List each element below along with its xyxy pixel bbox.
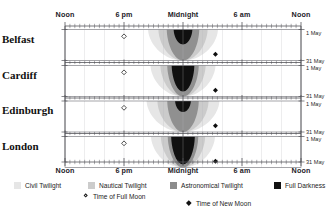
city-label-cardiff: Cardiff xyxy=(2,69,62,81)
legend-label-nautical-twilight: Nautical Twilight xyxy=(99,182,147,189)
legend-band-row: Civil Twilight Nautical Twilight Astrono… xyxy=(0,178,335,192)
axis-label-top-6pm: 6 pm xyxy=(115,10,132,19)
axis-label-bottom-6pm: 6 pm xyxy=(115,166,132,175)
legend-item-full-darkness: Full Darkness xyxy=(274,182,325,189)
axis-label-top-noon-left: Noon xyxy=(56,10,75,19)
date-label-1: 31 May xyxy=(306,58,324,64)
axis-label-bottom-noon-left: Noon xyxy=(56,166,75,175)
civil-twilight-swatch-icon xyxy=(14,182,21,189)
date-label-7: 31 May xyxy=(306,159,324,165)
legend-label-astronomical-twilight: Astronomical Twilight xyxy=(181,182,243,189)
legend-item-new-moon: Time of New Moon xyxy=(186,200,335,207)
legend-item-full-moon: Time of Full Moon xyxy=(83,193,335,200)
legend-moon-row: Time of Full Moon Time of New Moon xyxy=(0,193,335,205)
legend-label-civil-twilight: Civil Twilight xyxy=(25,182,61,189)
legend-item-astronomical-twilight: Astronomical Twilight xyxy=(170,182,243,189)
date-label-0: 1 May xyxy=(306,30,321,36)
panel-cardiff xyxy=(65,66,301,97)
astronomical-twilight-swatch-icon xyxy=(170,182,177,189)
legend-label-full-moon: Time of Full Moon xyxy=(93,193,146,200)
axis-label-top-6am: 6 am xyxy=(234,10,251,19)
date-label-5: 31 May xyxy=(306,129,324,135)
city-label-edinburgh: Edinburgh xyxy=(2,104,62,116)
legend-label-new-moon: Time of New Moon xyxy=(196,200,251,207)
panel-belfast xyxy=(65,30,301,61)
diamond-outline-icon xyxy=(83,193,90,200)
axis-label-bottom-midnight: Midnight xyxy=(168,166,199,175)
city-label-belfast: Belfast xyxy=(2,33,62,45)
date-label-6: 1 May xyxy=(306,136,321,142)
axis-label-top-noon-right: Noon xyxy=(292,10,311,19)
axis-label-top-midnight: Midnight xyxy=(168,10,199,19)
twilight-chart: Noon 6 pm Midnight 6 am Noon Noon 6 pm M… xyxy=(0,0,335,218)
city-label-london: London xyxy=(2,140,62,152)
nautical-twilight-swatch-icon xyxy=(88,182,95,189)
axis-label-bottom-6am: 6 am xyxy=(234,166,251,175)
axis-label-bottom-noon-right: Noon xyxy=(292,166,311,175)
date-label-3: 31 May xyxy=(306,93,324,99)
legend-label-full-darkness: Full Darkness xyxy=(285,182,325,189)
date-label-2: 1 May xyxy=(306,65,321,71)
diamond-filled-icon xyxy=(186,200,193,207)
date-label-4: 1 May xyxy=(306,101,321,107)
panel-edinburgh xyxy=(65,101,301,132)
full-darkness-swatch-icon xyxy=(274,182,281,189)
legend-item-nautical-twilight: Nautical Twilight xyxy=(88,182,147,189)
legend-item-civil-twilight: Civil Twilight xyxy=(14,182,61,189)
